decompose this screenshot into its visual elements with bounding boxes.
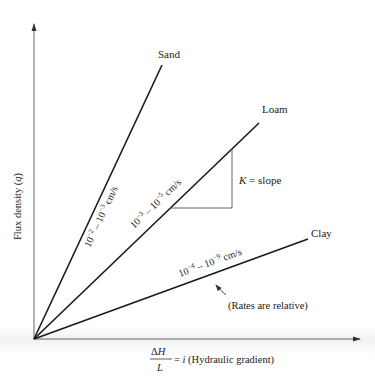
diagram-root: Sand Loam Clay 10−2 – 10−3 cm/s 10−3 – 1… [0,0,375,384]
note-arrow [216,285,226,295]
clay-rate-label: 10−4 – 10−9 cm/s [177,245,244,279]
loam-line [34,123,259,339]
clay-line [34,239,308,339]
loam-label: Loam [262,103,288,115]
darcy-law-diagram: Sand Loam Clay 10−2 – 10−3 cm/s 10−3 – 1… [0,0,375,384]
rates-relative-note: (Rates are relative) [228,300,308,312]
sand-label: Sand [158,48,181,60]
x-axis-label: ΔH L = i (Hydraulic gradient) [150,346,275,373]
x-label-denominator: L [156,362,163,373]
x-label-numerator: ΔH [151,346,167,357]
y-axis-label: Flux density (q) [12,172,24,240]
sand-rate-label: 10−2 – 10−3 cm/s [81,184,120,249]
slope-label: K = slope [238,174,281,186]
x-label-rest: = i (Hydraulic gradient) [174,354,275,366]
sand-line [34,65,162,339]
clay-label: Clay [311,227,332,239]
